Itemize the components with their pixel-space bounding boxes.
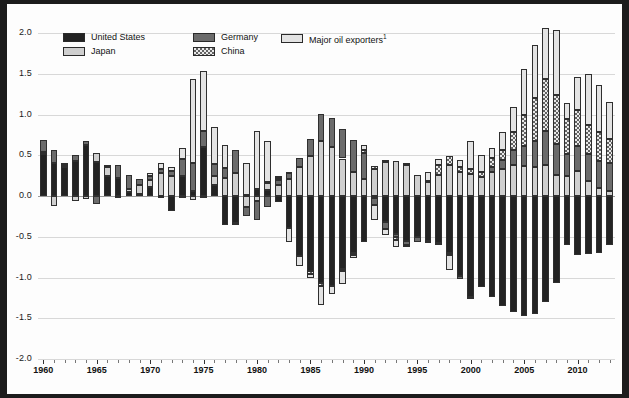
bar-column <box>361 33 368 359</box>
bar-segment-germany <box>72 155 79 161</box>
bar-segment-china <box>264 182 271 184</box>
bar-segment-united-states <box>136 194 143 196</box>
legend-swatch-oil <box>281 34 303 43</box>
bar-segment-japan <box>499 169 506 196</box>
bar-segment-japan <box>232 173 239 196</box>
bar-segment-germany <box>254 201 261 220</box>
bar-column <box>168 33 175 359</box>
bar-segment-china <box>596 132 603 161</box>
bar-segment-japan <box>286 179 293 196</box>
bar-segment-germany <box>211 164 218 176</box>
bar-segment-germany <box>275 180 282 186</box>
bar-column <box>83 33 90 359</box>
bar-segment-germany <box>83 141 90 145</box>
bar-segment-japan <box>190 196 197 200</box>
bar-segment-united-states <box>467 196 474 297</box>
x-axis-major-tick <box>97 360 98 364</box>
bar-segment-major-oil-exporters <box>457 160 464 167</box>
bar-segment-major-oil-exporters <box>147 173 154 176</box>
bar-segment-germany <box>318 114 325 142</box>
bar-column <box>190 33 197 359</box>
bar-segment-japan <box>457 172 464 196</box>
bar-segment-china <box>403 163 410 165</box>
bar-segment-united-states <box>403 196 410 241</box>
legend-item-oil[interactable]: Major oil exporters1 <box>281 32 387 45</box>
bar-segment-japan <box>393 161 400 196</box>
bar-segment-major-oil-exporters <box>585 74 592 125</box>
bar-segment-united-states <box>126 192 133 196</box>
x-axis-tick-label: 2010 <box>558 366 598 375</box>
bar-column <box>339 33 346 359</box>
bar-column <box>147 33 154 359</box>
x-axis-tick-label: 1995 <box>397 366 437 375</box>
bar-segment-major-oil-exporters <box>232 223 239 225</box>
legend-item-us[interactable]: United States <box>63 32 145 42</box>
bar-segment-japan <box>606 191 613 196</box>
bar-segment-japan <box>329 147 336 196</box>
bar-segment-japan <box>296 167 303 196</box>
bar-column <box>211 33 218 359</box>
bar-segment-germany <box>126 175 133 189</box>
bar-segment-germany <box>532 141 539 167</box>
bar-segment-germany <box>542 131 549 165</box>
bar-column <box>499 33 506 359</box>
bar-segment-germany <box>40 140 47 152</box>
bar-segment-united-states <box>254 189 261 196</box>
bar-column <box>40 33 47 359</box>
legend-item-germany[interactable]: Germany <box>193 32 258 42</box>
bar-segment-germany <box>457 276 464 279</box>
x-axis-major-tick <box>204 360 205 364</box>
legend-footnote-marker: 1 <box>383 33 387 40</box>
bar-segment-united-states <box>83 145 90 196</box>
x-axis-tick <box>268 360 269 363</box>
bar-segment-china <box>361 150 368 153</box>
bar-segment-germany <box>243 207 250 215</box>
bar-segment-united-states <box>489 196 496 297</box>
x-axis-major-tick <box>417 360 418 364</box>
x-axis-tick <box>65 360 66 363</box>
bar-segment-major-oil-exporters <box>264 141 271 182</box>
x-axis-tick <box>214 360 215 363</box>
legend-item-japan[interactable]: Japan <box>63 46 116 56</box>
bar-segment-major-oil-exporters <box>318 286 325 306</box>
x-axis-tick <box>86 360 87 363</box>
bar-segment-china <box>371 166 378 169</box>
bar-segment-china <box>499 150 506 161</box>
bar-segment-united-states <box>414 196 421 237</box>
bar-segment-japan <box>51 196 58 206</box>
y-axis-tick-label: 1.0 <box>8 110 32 119</box>
bar-segment-germany <box>222 168 229 178</box>
x-axis-tick <box>535 360 536 363</box>
bar-column <box>243 33 250 359</box>
x-axis-tick <box>182 360 183 363</box>
bar-segment-china <box>489 158 496 167</box>
bar-segment-united-states <box>446 196 453 253</box>
bar-segment-germany <box>510 150 517 165</box>
bar-segment-china <box>532 98 539 141</box>
bar-segment-united-states <box>40 154 47 196</box>
bar-segment-germany <box>425 241 432 243</box>
bar-segment-united-states <box>211 185 218 196</box>
bar-column <box>296 33 303 359</box>
bar-column <box>126 33 133 359</box>
bar-segment-germany <box>329 118 336 147</box>
legend-swatch-germany <box>193 33 215 42</box>
x-axis-tick <box>588 360 589 363</box>
bar-column <box>104 33 111 359</box>
bar-segment-united-states <box>200 147 207 196</box>
x-axis-tick <box>396 360 397 363</box>
legend-item-china[interactable]: China <box>193 46 245 56</box>
x-axis-tick <box>140 360 141 363</box>
bar-segment-major-oil-exporters <box>393 240 400 247</box>
bar-segment-china <box>275 178 282 180</box>
bar-column <box>521 33 528 359</box>
x-axis-tick <box>513 360 514 363</box>
bar-segment-united-states <box>435 196 442 243</box>
bar-segment-germany <box>158 169 165 173</box>
bar-segment-major-oil-exporters <box>382 229 389 236</box>
bar-segment-major-oil-exporters <box>222 145 229 168</box>
bar-segment-germany <box>489 167 496 173</box>
bar-segment-major-oil-exporters <box>606 102 613 139</box>
x-axis-tick-label: 2000 <box>451 366 491 375</box>
y-axis-tick-label: -0.5 <box>8 232 32 241</box>
